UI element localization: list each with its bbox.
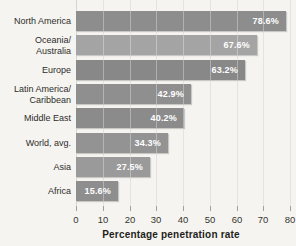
x-axis-tick (76, 206, 77, 211)
x-axis-tick (210, 206, 211, 211)
x-axis-tick (290, 206, 291, 211)
category-label: Asia (0, 162, 71, 173)
bar-value-label: 63.2% (211, 65, 238, 75)
gridline-overlay (183, 0, 184, 206)
gridline-overlay (237, 0, 238, 206)
bar: 42.9% (76, 84, 191, 104)
x-axis-title: Percentage penetration rate (56, 229, 286, 240)
bar: 63.2% (76, 60, 245, 80)
category-label: Africa (0, 186, 71, 197)
gridline-overlay (290, 0, 291, 206)
x-tick-label: 10 (98, 214, 109, 225)
x-axis-tick (183, 206, 184, 211)
bar: 15.6% (76, 181, 118, 201)
x-axis-tick (156, 206, 157, 211)
gridline-overlay (130, 0, 131, 206)
x-tick-label: 70 (258, 214, 269, 225)
x-axis-tick (237, 206, 238, 211)
x-tick-label: 60 (232, 214, 243, 225)
x-tick-label: 30 (151, 214, 162, 225)
bar-value-label: 78.6% (252, 16, 279, 26)
x-axis-tick (263, 206, 264, 211)
category-label: Middle East (0, 113, 71, 124)
bar: 78.6% (76, 11, 286, 31)
bar-value-label: 15.6% (84, 186, 111, 196)
gridline-overlay (263, 0, 264, 206)
category-label: Europe (0, 65, 71, 76)
bar-value-label: 34.3% (134, 138, 161, 148)
bar-value-label: 40.2% (150, 113, 177, 123)
bar: 34.3% (76, 133, 168, 153)
bar-value-label: 42.9% (157, 89, 184, 99)
x-tick-label: 40 (178, 214, 189, 225)
x-axis-tick (103, 206, 104, 211)
x-tick-label: 80 (285, 214, 296, 225)
gridline-overlay (210, 0, 211, 206)
x-tick-label: 0 (73, 214, 78, 225)
gridline-overlay (103, 0, 104, 206)
x-tick-label: 50 (205, 214, 216, 225)
bar: 27.5% (76, 157, 150, 177)
category-label: North America (0, 16, 71, 27)
category-label: World, avg. (0, 138, 71, 149)
category-label: Latin America/Caribbean (0, 84, 71, 105)
category-label: Oceania/Australia (0, 35, 71, 56)
gridline-overlay (156, 0, 157, 206)
plot-area: 01020304050607080North America78.6%Ocean… (0, 0, 296, 246)
penetration-rate-chart: 01020304050607080North America78.6%Ocean… (0, 0, 296, 246)
x-axis-tick (130, 206, 131, 211)
x-tick-label: 20 (125, 214, 136, 225)
